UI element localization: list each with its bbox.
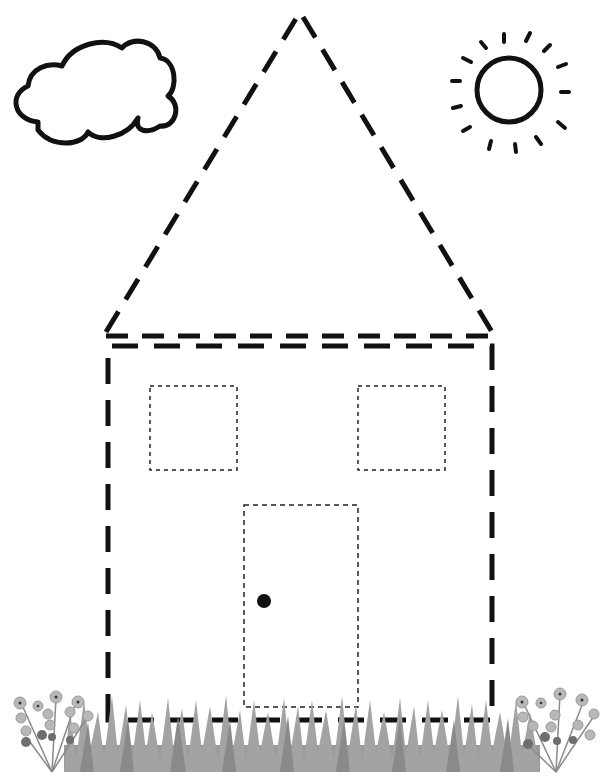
house-walls-outline — [108, 346, 492, 720]
sun-icon — [452, 33, 569, 152]
door-knob-icon — [257, 594, 271, 608]
worksheet-canvas — [0, 0, 601, 779]
house-drawing — [0, 0, 601, 779]
cloud-icon — [16, 41, 176, 143]
left-window-outline — [150, 386, 237, 470]
right-window-outline — [358, 386, 445, 470]
